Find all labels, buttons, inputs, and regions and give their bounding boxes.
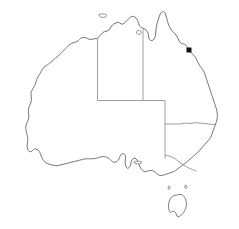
australia-outline-map bbox=[0, 0, 239, 229]
flinders-island bbox=[185, 185, 187, 188]
groote-eylandt-island bbox=[137, 30, 142, 34]
east-coast-point-marker[interactable] bbox=[187, 48, 192, 53]
tasmania-island bbox=[169, 194, 187, 216]
kangaroo-island bbox=[134, 161, 142, 164]
melville-island bbox=[99, 14, 107, 18]
king-island bbox=[168, 186, 170, 189]
map-canvas bbox=[0, 0, 239, 229]
mainland-coastline bbox=[26, 11, 218, 175]
